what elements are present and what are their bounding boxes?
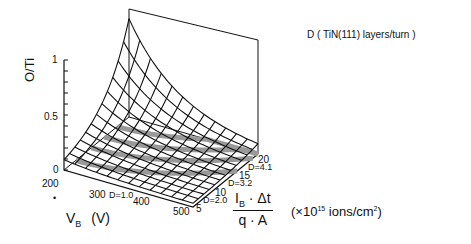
legend-annotation: D ( TiN(111) layers/turn ) [307, 29, 416, 40]
y-tick-5: 5 [196, 203, 202, 214]
y-tick-15: 15 [239, 170, 250, 181]
z-axis-label: O/Ti [22, 58, 37, 82]
x-dot: • [53, 193, 56, 203]
x-tick-200: 200 [42, 178, 59, 189]
z-tick-0: 0 [53, 164, 59, 175]
z-tick-1: 1 [52, 54, 58, 65]
x-tick-500: 500 [173, 206, 190, 217]
y-tick-10: 10 [215, 187, 226, 198]
x-axis-label: VB (V) [66, 210, 110, 229]
y-tick-20: 20 [258, 154, 269, 165]
x-tick-400: 400 [133, 196, 150, 207]
y-axis-units: (×1015 ions/cm2) [291, 204, 382, 219]
contour-label-d1: D=1.0 [109, 190, 133, 200]
z-tick-0.5: 0.5 [44, 111, 58, 122]
x-tick-300: 300 [89, 189, 106, 200]
y-axis-fraction: IB · Δt q · A [233, 190, 273, 228]
